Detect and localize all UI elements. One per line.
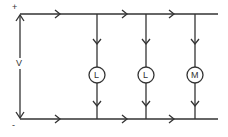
lamp-1-symbol: L: [94, 71, 99, 80]
voltage-label: V: [16, 58, 22, 69]
negative-label: -: [12, 121, 15, 130]
circuit-diagram: [0, 0, 228, 137]
motor-symbol: M: [191, 71, 199, 80]
lamp-2-symbol: L: [143, 71, 148, 80]
positive-label: +: [12, 3, 17, 12]
